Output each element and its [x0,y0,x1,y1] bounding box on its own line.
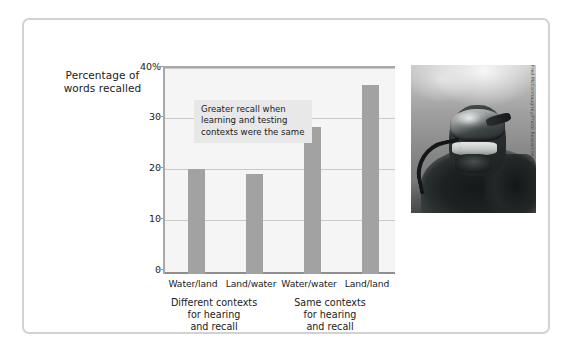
scuba-diver-photo-figure [411,65,536,213]
figure-frame: Percentage of words recalled 40% 30 20 1… [22,18,550,334]
group-caption-1-line-3: and recall [154,321,274,333]
y-tick-label-20: 20 [121,162,161,173]
y-tick-label-10: 10 [121,213,161,224]
gridline-40 [165,68,395,69]
group-caption-1-line-1: Different contexts [154,297,274,309]
x-label-land-land: Land/land [329,278,405,289]
y-tick-label-40: 40% [121,61,161,72]
annotation-line-3: contexts were the same [201,127,305,138]
y-axis-tick-labels: 40% 30 20 10 0 [119,66,161,274]
plot-area: Greater recall when learning and testing… [163,66,395,274]
group-caption-1-line-2: for hearing [154,309,274,321]
group-caption-2-line-3: and recall [270,321,390,333]
y-tick-label-0: 0 [121,264,161,275]
group-caption-different-contexts: Different contexts for hearing and recal… [154,297,274,334]
photo-credit: Fred McConnaughey/Photo Researchers [527,65,537,213]
group-caption-same-contexts: Same contexts for hearing and recall [270,297,390,334]
group-caption-2-line-1: Same contexts [270,297,390,309]
bar-water-water [304,127,321,274]
scuba-diver-photo [411,65,536,213]
annotation-line-1: Greater recall when [201,104,305,115]
y-tick-label-30: 30 [121,111,161,122]
group-caption-2-line-2: for hearing [270,309,390,321]
bar-land-water [246,174,263,274]
bar-water-land [188,169,205,274]
bar-land-land [362,85,379,274]
annotation-callout: Greater recall when learning and testing… [194,100,312,143]
annotation-line-2: learning and testing [201,115,305,126]
